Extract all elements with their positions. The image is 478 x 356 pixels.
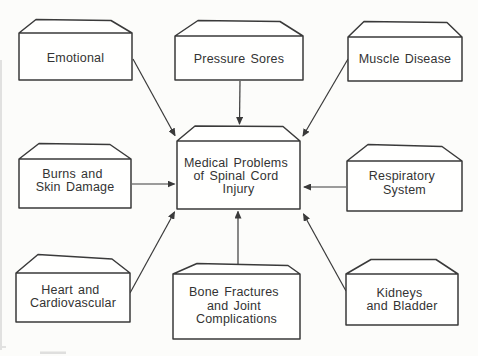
box-label: Kidneys and Bladder [366, 286, 437, 314]
arrow-muscle-disease-to-center [303, 59, 348, 136]
box-label-line: Kidneys [376, 286, 422, 300]
box-label-line: Complications [196, 312, 277, 326]
box-label-line: and Joint [207, 299, 261, 313]
box-label-line: Heart and [41, 283, 99, 297]
box-respiratory-system: Respiratory System [347, 145, 462, 212]
box-outline [175, 21, 303, 81]
box-label: Pressure Sores [194, 52, 284, 66]
box-label: Burns and Skin Damage [36, 167, 115, 194]
arrow-emotional-to-center [133, 59, 175, 136]
box-label-line: Injury [223, 182, 255, 196]
box-medical-problems-center: Medical Problems of Spinal Cord Injury [177, 126, 300, 209]
box-label: Muscle Disease [359, 52, 452, 66]
diagram-page: Emotional Pressure Sores Muscle Disease … [0, 0, 478, 356]
box-label-line: Skin Damage [36, 180, 115, 194]
box-bone-fractures-and-joint-complications: Bone Fractures and Joint Complications [173, 264, 300, 340]
spinal-cord-injury-diagram: Emotional Pressure Sores Muscle Disease … [0, 0, 478, 356]
box-heart-and-cardiovascular: Heart and Cardiovascular [16, 255, 130, 323]
arrow-pressure-sores-to-center [240, 81, 241, 124]
box-pressure-sores: Pressure Sores [175, 21, 303, 81]
scan-edge-artifact [0, 60, 2, 350]
box-muscle-disease: Muscle Disease [348, 22, 462, 82]
box-burns-and-skin-damage: Burns and Skin Damage [19, 144, 131, 209]
caption-fragment [2, 346, 6, 348]
box-label: Heart and Cardiovascular [30, 283, 116, 311]
box-label-line: Cardiovascular [30, 296, 116, 310]
box-label-line: and Bladder [366, 299, 437, 313]
box-label-line: Muscle Disease [359, 52, 452, 66]
box-label-line: Medical Problems [184, 156, 288, 170]
arrow-heart-to-center [130, 212, 175, 293]
caption-fragment [40, 352, 66, 355]
box-label-line: Pressure Sores [194, 52, 284, 66]
box-label-line: Burns and [42, 167, 102, 181]
box-emotional: Emotional [19, 20, 132, 81]
arrow-kidneys-to-center [304, 214, 347, 291]
box-label-line: Bone Fractures [189, 285, 279, 299]
box-label-line: Respiratory [369, 169, 436, 183]
box-label-line: Emotional [47, 51, 104, 65]
box-label: Emotional [47, 51, 104, 65]
box-label-line: System [383, 183, 426, 197]
box-kidneys-and-bladder: Kidneys and Bladder [346, 260, 458, 326]
